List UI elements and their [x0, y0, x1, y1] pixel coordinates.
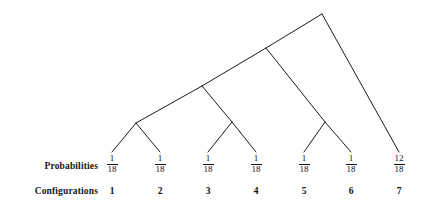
fraction-denominator: 18 [346, 164, 357, 175]
fraction-denominator: 18 [203, 164, 214, 175]
probability-cell: 1 18 [236, 154, 276, 175]
fraction-denominator: 18 [251, 164, 262, 175]
fraction: 1 18 [155, 154, 166, 175]
configuration-cell: 4 [236, 186, 276, 196]
fraction: 1 18 [107, 154, 118, 175]
configurations-row-label: Configurations [6, 186, 98, 196]
fraction: 1 18 [346, 154, 357, 175]
probability-cell: 1 18 [92, 154, 132, 175]
fraction-numerator: 1 [203, 154, 214, 164]
fraction: 1 18 [299, 154, 310, 175]
fraction-denominator: 18 [299, 164, 310, 175]
configuration-cell: 3 [188, 186, 228, 196]
fraction-numerator: 1 [346, 154, 357, 164]
fraction-denominator: 18 [107, 164, 118, 175]
configuration-cell: 5 [284, 186, 324, 196]
fraction-numerator: 1 [155, 154, 166, 164]
probability-cell: 1 18 [331, 154, 371, 175]
fraction-numerator: 1 [299, 154, 310, 164]
fraction: 1 18 [251, 154, 262, 175]
fraction-numerator: 12 [394, 154, 405, 164]
configuration-cell: 6 [331, 186, 371, 196]
edge-n3-n5 [202, 86, 232, 122]
edge-n6-leaf5 [304, 122, 325, 152]
edge-n6-leaf6 [325, 122, 351, 152]
fraction-numerator: 1 [107, 154, 118, 164]
configuration-cell: 7 [379, 186, 419, 196]
tree-diagram-svg [0, 0, 426, 216]
edge-n4-leaf1 [112, 123, 136, 152]
edge-n5-leaf3 [208, 122, 232, 152]
fraction-numerator: 1 [251, 154, 262, 164]
tree-figure: Probabilities Configurations 1 18 1 18 1… [0, 0, 426, 216]
fraction: 1 18 [203, 154, 214, 175]
edge-n2-n6 [266, 48, 325, 122]
configuration-cell: 1 [92, 186, 132, 196]
edge-root-n2 [266, 14, 322, 48]
probability-cell: 1 18 [188, 154, 228, 175]
configuration-cell: 2 [140, 186, 180, 196]
probability-cell: 1 18 [284, 154, 324, 175]
fraction-denominator: 18 [394, 164, 405, 175]
edge-n2-n3 [202, 48, 266, 86]
tree-edges [112, 14, 399, 152]
fraction-denominator: 18 [155, 164, 166, 175]
edge-n3-n4 [136, 86, 202, 123]
probability-cell: 12 18 [379, 154, 419, 175]
probabilities-row-label: Probabilities [6, 161, 98, 171]
probability-cell: 1 18 [140, 154, 180, 175]
edge-n5-leaf4 [232, 122, 256, 152]
fraction: 12 18 [394, 154, 405, 175]
edge-n4-leaf2 [136, 123, 160, 152]
